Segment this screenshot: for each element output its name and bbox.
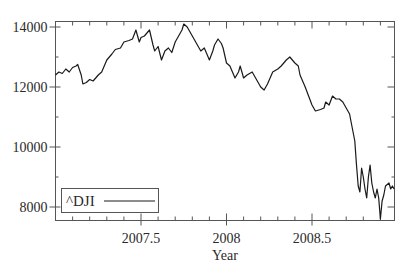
legend-label: ^DJI (66, 193, 95, 209)
x-axis-label: Year (212, 248, 238, 263)
y-tick-label: 14000 (13, 20, 48, 35)
y-tick-label: 12000 (13, 80, 48, 95)
y-tick-label: 8000 (20, 200, 48, 215)
line-chart: 8000100001200014000 2007.520082008.5 ^DJ… (0, 0, 412, 277)
x-tick-label: 2007.5 (122, 231, 161, 246)
y-tick-label: 10000 (13, 140, 48, 155)
legend: ^DJI (62, 189, 159, 213)
x-tick-label: 2008 (213, 231, 241, 246)
x-tick-label: 2008.5 (293, 231, 332, 246)
